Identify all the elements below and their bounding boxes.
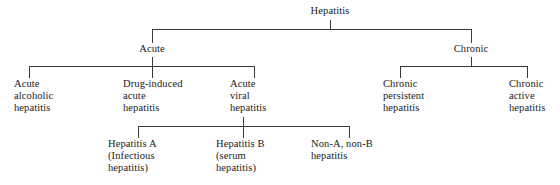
node-acute-viral-hepatitis: Acute viral hepatitis: [230, 78, 266, 115]
connector-acute-viral-stem: [243, 117, 244, 126]
node-hepatitis-a: Hepatitis A (Infectious hepatitis): [108, 138, 157, 175]
node-hepatitis-root: Hepatitis: [311, 5, 350, 17]
node-chronic: Chronic: [454, 43, 489, 55]
connector-drop-hepatitis-a: [138, 126, 139, 138]
connector-drop-hepatitis-b: [243, 126, 244, 138]
node-acute: Acute: [139, 43, 165, 55]
connector-root-stem: [330, 20, 331, 29]
connector-chronic-children-bar: [400, 66, 527, 67]
hepatitis-classification-diagram: Hepatitis Acute Chronic Acute alcoholic …: [0, 0, 560, 185]
connector-acute-stem: [152, 57, 153, 66]
node-non-a-non-b-hepatitis: Non-A, non-B hepatitis: [311, 138, 373, 162]
connector-level1-bar: [152, 29, 471, 30]
connector-drop-acute: [152, 29, 153, 43]
connector-chronic-stem: [471, 57, 472, 66]
connector-drop-chronic: [471, 29, 472, 43]
node-acute-alcoholic-hepatitis: Acute alcoholic hepatitis: [14, 78, 53, 115]
connector-drop-chronic-active: [527, 66, 528, 78]
connector-drop-chronic-persistent: [400, 66, 401, 78]
connector-drop-non-a-non-b: [349, 126, 350, 138]
connector-acute-children-bar: [29, 66, 254, 67]
connector-drop-acute-alcoholic: [29, 66, 30, 78]
connector-drop-drug-induced: [152, 66, 153, 78]
node-chronic-active-hepatitis: Chronic active hepatitis: [509, 78, 545, 115]
node-drug-induced-acute-hepatitis: Drug-induced acute hepatitis: [123, 78, 183, 115]
node-chronic-persistent-hepatitis: Chronic persistent hepatitis: [383, 78, 424, 115]
connector-drop-acute-viral: [254, 66, 255, 78]
node-hepatitis-b: Hepatitis B (serum hepatitis): [216, 138, 265, 175]
